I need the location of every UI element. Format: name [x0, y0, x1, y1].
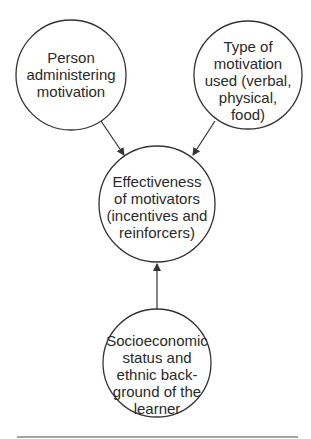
- node-label-line: motivation: [37, 83, 105, 100]
- node-label-line: reinforcers): [119, 224, 195, 241]
- motivation-diagram: Person administering motivation Type of …: [0, 0, 311, 439]
- node-type-of-motivation: Type of motivation used (verbal, physica…: [194, 21, 302, 129]
- node-label-line: of motivators: [114, 190, 200, 207]
- node-label-line: Person: [47, 49, 95, 66]
- node-label-line: Effectiveness: [113, 173, 202, 190]
- node-label-line: ground of the: [113, 383, 201, 400]
- node-label-line: status and: [122, 349, 191, 366]
- node-effectiveness: Effectiveness of motivators (incentives …: [99, 146, 215, 262]
- node-socioeconomic: Socioeconomic status and ethnic back- gr…: [103, 309, 211, 417]
- node-label-line: food): [231, 106, 265, 123]
- node-label-line: Socioeconomic: [106, 332, 208, 349]
- edge-type-to-effectiveness: [193, 121, 215, 155]
- node-label-line: motivation: [214, 55, 282, 72]
- node-label-line: administering: [26, 66, 115, 83]
- edge-person-to-effectiveness: [101, 121, 124, 155]
- node-label-line: learner: [134, 400, 181, 417]
- node-person-administering: Person administering motivation: [16, 20, 126, 130]
- node-label-line: physical,: [219, 89, 277, 106]
- node-label-line: ethnic back-: [117, 366, 198, 383]
- node-label-line: used (verbal,: [205, 72, 292, 89]
- node-label-line: (incentives and: [107, 207, 208, 224]
- node-label-line: Type of: [223, 38, 273, 55]
